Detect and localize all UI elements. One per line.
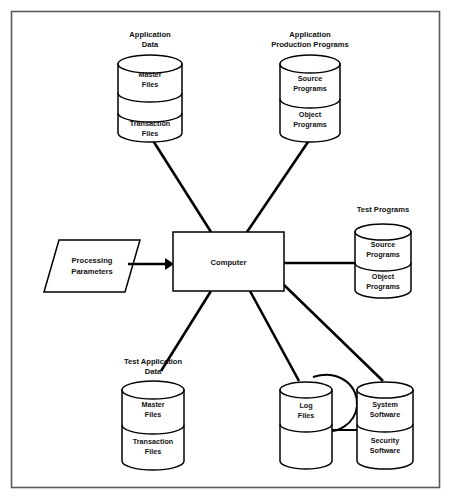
- test-programs-source-line2: Programs: [366, 250, 400, 259]
- test-programs-source-line1: Source: [371, 240, 395, 249]
- application-data-title-line2: Data: [142, 40, 159, 49]
- test-application-data-transaction-line2: Files: [145, 447, 161, 456]
- security-software-label-line2: Software: [370, 446, 400, 455]
- test-programs-object-line2: Programs: [366, 282, 400, 291]
- production-programs-title-line1: Application: [289, 30, 331, 39]
- application-data-transaction-files-line2: Files: [142, 129, 158, 138]
- system-flow-diagram: Application Data Master Files Transactio…: [0, 0, 456, 498]
- production-programs-title-line2: Production Programs: [271, 40, 349, 49]
- processing-parameters-label-line1: Processing: [72, 256, 113, 265]
- application-data-title-line1: Application: [129, 30, 171, 39]
- test-programs-object-line1: Object: [372, 272, 395, 281]
- computer-label: Computer: [211, 258, 247, 267]
- log-files-label-line1: Log: [299, 401, 312, 410]
- system-software-cylinder-top: [357, 382, 413, 398]
- log-files-label-line2: Files: [298, 411, 314, 420]
- log-files-cylinder-top: [280, 382, 332, 398]
- production-programs-object-line1: Object: [299, 110, 322, 119]
- processing-parameters-label-line2: Parameters: [71, 267, 112, 276]
- test-application-data-title-line1: Test Application: [124, 357, 183, 366]
- test-application-data-transaction-line1: Transaction: [133, 437, 173, 446]
- production-programs-source-line1: Source: [298, 74, 322, 83]
- diagram-canvas: Application Data Master Files Transactio…: [0, 0, 456, 498]
- test-application-data-master-line1: Master: [141, 400, 164, 409]
- store-log-files[interactable]: Log Files: [280, 382, 332, 469]
- test-application-data-title-line2: Data: [145, 367, 162, 376]
- security-software-label-line1: Security: [371, 436, 399, 445]
- processing-parameters-parallelogram: [44, 240, 140, 292]
- application-data-master-files-line2: Files: [142, 80, 158, 89]
- production-programs-object-line2: Programs: [293, 120, 327, 129]
- test-application-data-master-line2: Files: [145, 410, 161, 419]
- production-programs-source-line2: Programs: [293, 84, 327, 93]
- test-programs-title: Test Programs: [357, 205, 410, 214]
- store-system-software[interactable]: System Software Security Software: [357, 382, 413, 469]
- application-data-transaction-files-line1: Transaction: [130, 119, 170, 128]
- node-computer[interactable]: Computer: [173, 232, 284, 291]
- test-programs-cylinder-top: [355, 224, 411, 240]
- test-application-data-cylinder-top: [122, 381, 184, 399]
- production-programs-cylinder-top: [280, 55, 340, 73]
- store-application-production-programs[interactable]: Application Production Programs Source P…: [271, 30, 349, 142]
- application-data-master-files-line1: Master: [138, 70, 161, 79]
- system-software-label-line2: Software: [370, 410, 400, 419]
- system-software-label-line1: System: [372, 400, 398, 409]
